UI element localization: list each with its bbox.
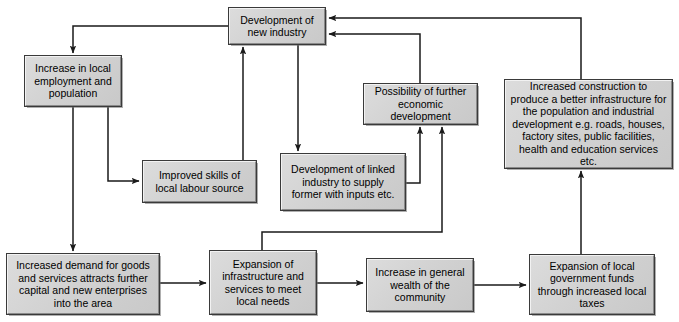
- node-gov-funds-label: Expansion of local government funds thro…: [535, 260, 649, 310]
- node-infrastructure-label: Expansion of infrastructure and services…: [215, 258, 311, 308]
- node-linked-industry-label: Development of linked industry to supply…: [286, 163, 400, 201]
- edge-further-development-to-new-industry: [329, 34, 420, 84]
- node-demand[interactable]: Increased demand for goods and services …: [7, 254, 159, 314]
- node-wealth[interactable]: Increase in general wealth of the commun…: [367, 259, 473, 311]
- edge-construction-to-new-industry: [329, 18, 581, 80]
- node-further-development[interactable]: Possibility of further economic developm…: [364, 84, 477, 124]
- node-skills[interactable]: Improved skills of local labour source: [143, 161, 256, 202]
- edge-linked-industry-to-further-development: [405, 127, 420, 183]
- node-demand-label: Increased demand for goods and services …: [12, 259, 154, 309]
- node-gov-funds[interactable]: Expansion of local government funds thro…: [530, 255, 654, 314]
- node-employment[interactable]: Increase in local employment and populat…: [25, 56, 121, 106]
- node-new-industry-label: Development of new industry: [234, 14, 320, 39]
- node-further-development-label: Possibility of further economic developm…: [369, 85, 472, 123]
- node-construction-label: Increased construction to produce a bett…: [510, 80, 667, 168]
- flowchart-diagram: Development of new industry Increase in …: [0, 0, 679, 322]
- node-new-industry[interactable]: Development of new industry: [229, 8, 325, 44]
- edge-employment-to-skills: [108, 106, 139, 181]
- node-wealth-label: Increase in general wealth of the commun…: [372, 266, 468, 304]
- node-construction[interactable]: Increased construction to produce a bett…: [505, 80, 672, 168]
- node-employment-label: Increase in local employment and populat…: [30, 62, 116, 100]
- node-skills-label: Improved skills of local labour source: [148, 169, 251, 194]
- node-linked-industry[interactable]: Development of linked industry to supply…: [281, 154, 405, 210]
- node-infrastructure[interactable]: Expansion of infrastructure and services…: [210, 251, 316, 314]
- edge-new-industry-to-employment: [73, 26, 229, 53]
